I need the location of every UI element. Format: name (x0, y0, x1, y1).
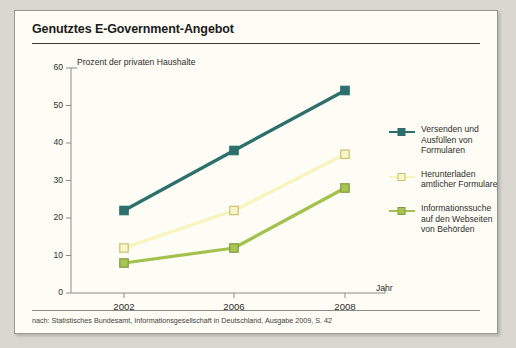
legend-label-informationssuche: Informationssuche auf den Webseiten von … (421, 203, 501, 235)
series-marker (341, 184, 349, 192)
source-note: nach: Statistisches Bundesamt, Informati… (32, 316, 332, 325)
series-marker (230, 206, 238, 214)
y-tick-label: 30 (35, 175, 63, 185)
y-tick-label: 50 (35, 100, 63, 110)
legend-label-herunterladen: Herunterladen amtlicher Formulare (421, 169, 501, 190)
y-tick-label: 40 (35, 137, 63, 147)
legend-swatch-versenden (389, 127, 415, 137)
chart-legend: Versenden und Ausfüllen von Formularen H… (389, 124, 501, 248)
series-marker (230, 146, 238, 154)
y-axis-caption: Prozent der privaten Haushalte (77, 57, 195, 67)
y-tick-label: 0 (35, 287, 63, 297)
footer-divider (32, 310, 480, 311)
legend-label-line: auf den Webseiten (421, 214, 493, 224)
series-marker (341, 86, 349, 94)
series-marker (341, 150, 349, 158)
legend-label-line: amtlicher Formulare (421, 179, 497, 189)
series-marker (230, 244, 238, 252)
legend-label-line: Ausfüllen von (421, 135, 473, 145)
series-marker (120, 259, 128, 267)
x-axis-caption: Jahr (376, 283, 393, 293)
y-tick-label: 20 (35, 212, 63, 222)
y-tick-label: 10 (35, 250, 63, 260)
legend-item-versenden: Versenden und Ausfüllen von Formularen (389, 124, 501, 156)
y-tick-label: 60 (35, 62, 63, 72)
legend-label-versenden: Versenden und Ausfüllen von Formularen (421, 124, 501, 156)
legend-swatch-informationssuche (389, 206, 415, 216)
series-marker (120, 244, 128, 252)
legend-label-line: Formularen (421, 145, 465, 155)
legend-item-informationssuche: Informationssuche auf den Webseiten von … (389, 203, 501, 235)
series-line (124, 154, 345, 248)
legend-label-line: Herunterladen (421, 169, 475, 179)
legend-item-herunterladen: Herunterladen amtlicher Formulare (389, 169, 501, 190)
legend-swatch-herunterladen (389, 172, 415, 182)
legend-label-line: Versenden und (421, 124, 479, 134)
legend-label-line: von Behörden (421, 224, 475, 234)
series-marker (120, 206, 128, 214)
figure-panel: Genutztes E-Government-Angebot Prozent d… (14, 10, 498, 334)
legend-label-line: Informationssuche (421, 203, 491, 213)
